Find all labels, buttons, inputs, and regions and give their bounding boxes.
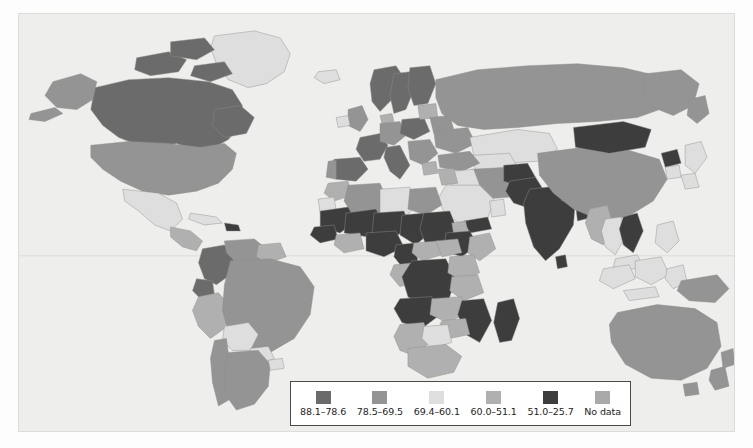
map-page: 88.1–78.6 78.5–69.5 69.4–60.1 60.0–51.1 … — [0, 0, 753, 448]
legend-item-label: 51.0–25.7 — [527, 406, 573, 417]
legend-swatch-icon — [372, 391, 387, 404]
legend-item: 60.0–51.1 — [471, 391, 517, 417]
region-sri-lanka — [555, 255, 567, 269]
legend-item: No data — [584, 391, 621, 417]
legend-swatch-icon — [316, 391, 331, 404]
region-denmark — [380, 114, 394, 124]
region-greece — [422, 161, 438, 175]
legend-item: 51.0–25.7 — [527, 391, 573, 417]
legend-item: 78.5–69.5 — [357, 391, 403, 417]
legend-item-label: No data — [584, 406, 621, 417]
region-oman — [490, 199, 506, 217]
world-choropleth-map — [19, 14, 734, 431]
region-ireland — [336, 116, 350, 128]
legend-swatch-icon — [595, 391, 610, 404]
legend-swatch-icon — [429, 391, 444, 404]
map-frame — [18, 13, 735, 432]
legend-item-label: 69.4–60.1 — [414, 406, 460, 417]
legend-item-label: 88.1–78.6 — [300, 406, 346, 417]
legend-item: 69.4–60.1 — [414, 391, 460, 417]
legend-swatch-icon — [543, 391, 558, 404]
legend-item-label: 60.0–51.1 — [471, 406, 517, 417]
legend-swatch-icon — [486, 391, 501, 404]
legend-item: 88.1–78.6 — [300, 391, 346, 417]
map-legend: 88.1–78.6 78.5–69.5 69.4–60.1 60.0–51.1 … — [290, 381, 631, 426]
region-south-korea — [665, 165, 681, 179]
legend-item-label: 78.5–69.5 — [357, 406, 403, 417]
region-uruguay — [268, 358, 284, 370]
region-tasmania — [683, 382, 699, 396]
